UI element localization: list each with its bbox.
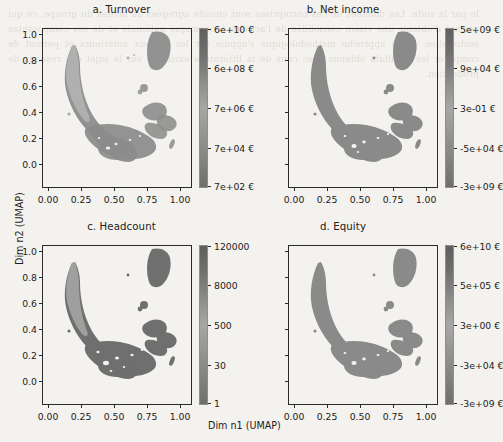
panel-a-title: a. Turnover: [0, 4, 243, 15]
panel-b-colorbar-label-2: 3e-01 €: [460, 103, 496, 114]
panel-b-colorbar-label-1: 9e+04 €: [460, 63, 500, 74]
panel-b-title: b. Net income: [243, 4, 443, 15]
panel-b-scatter-cloud: [288, 28, 438, 188]
panel-a-colorbar: 6e+10 € 6e+08 € 7e+06 € 7e+04 € 7e+02 €: [199, 28, 208, 188]
panel-c-ytick-0.2: 0.2: [22, 350, 37, 361]
panel-c-xtick-0.75: 0.75: [137, 411, 158, 422]
panel-b-xtick-0.25: 0.25: [317, 194, 338, 205]
panel-c-ytick-0.6: 0.6: [22, 298, 37, 309]
panel-b-xtick-1.00: 1.00: [416, 194, 437, 205]
panel-d-colorbar-label-1: 5e+05 €: [460, 280, 500, 291]
panel-a-ytick-0.6: 0.6: [22, 81, 37, 92]
panel-d-equity: d. Equity: [243, 217, 487, 442]
panel-d-colorbar-label-2: 3e+00 €: [460, 320, 500, 331]
panel-d-xtick-0.00: 0.00: [284, 411, 305, 422]
panel-c-xtick-1.00: 1.00: [170, 411, 191, 422]
panel-a-xtick-0.25: 0.25: [71, 194, 92, 205]
panel-c-xtick-0.25: 0.25: [71, 411, 92, 422]
panel-a-scatter-cloud: [42, 28, 192, 188]
figure-ylabel: Dim n2 (UMAP): [14, 192, 25, 265]
panel-d-axes: [288, 245, 438, 405]
panel-a-xtick-1.00: 1.00: [170, 194, 191, 205]
panel-b-xtick-0.50: 0.50: [350, 194, 371, 205]
panel-b-colorbar-label-0: 5e+09 €: [460, 24, 500, 35]
panel-a-axes: 1.0 0.8 0.6 0.4 0.2 0.0: [42, 28, 192, 188]
panel-a-colorbar-gradient: [199, 28, 208, 188]
panel-d-xtick-0.50: 0.50: [350, 411, 371, 422]
panel-c-xtick-0.50: 0.50: [104, 411, 125, 422]
panel-b-xtick-0.75: 0.75: [383, 194, 404, 205]
panel-d-xtick-0.25: 0.25: [317, 411, 338, 422]
panel-c-headcount: c. Headcount 1.0 0.8 0.6 0.4 0.2 0.0: [0, 217, 243, 442]
panel-c-axes: 1.0 0.8 0.6 0.4 0.2 0.0: [42, 245, 192, 405]
panel-c-scatter-cloud: [42, 245, 192, 405]
panel-c-colorbar-label-4: 1: [214, 398, 220, 409]
panel-a-xtick-0.00: 0.00: [38, 194, 59, 205]
panel-c-ytick-0.4: 0.4: [22, 324, 37, 335]
panel-d-colorbar: 6e+10 € 5e+05 € 3e+00 € -3e+04 € -3e+09 …: [445, 245, 454, 405]
panel-d-scatter-cloud: [288, 245, 438, 405]
panel-b-net-income: b. Net income: [243, 4, 487, 217]
panel-c-ytick-0.8: 0.8: [22, 272, 37, 283]
panel-a-xtick-0.75: 0.75: [137, 194, 158, 205]
figure-xlabel: Dim n1 (UMAP): [208, 420, 281, 431]
panel-d-colorbar-label-4: -3e+09 €: [460, 398, 503, 409]
panel-d-colorbar-label-3: -3e+04 €: [460, 360, 503, 371]
panel-c-colorbar: 120000 8000 500 30 1: [199, 245, 208, 405]
panel-a-ytick-0.4: 0.4: [22, 107, 37, 118]
panel-c-colorbar-label-3: 30: [214, 360, 226, 371]
panel-a-ytick-0.0: 0.0: [22, 159, 37, 170]
panel-b-axes: [288, 28, 438, 188]
panel-d-xtick-0.75: 0.75: [383, 411, 404, 422]
panel-b-colorbar-label-4: -3e+09 €: [460, 181, 503, 192]
panel-a-turnover: a. Turnover 1.0 0.8 0.6 0.4 0.2 0.0: [0, 4, 243, 217]
panel-c-xtick-0.00: 0.00: [38, 411, 59, 422]
panel-c-ytick-0.0: 0.0: [22, 376, 37, 387]
panel-b-colorbar-gradient: [445, 28, 454, 188]
panel-c-colorbar-label-2: 500: [214, 320, 232, 331]
panel-b-colorbar: 5e+09 € 9e+04 € 3e-01 € -5e+04 € -3e+09 …: [445, 28, 454, 188]
panel-d-colorbar-label-0: 6e+10 €: [460, 241, 500, 252]
panel-d-xtick-1.00: 1.00: [416, 411, 437, 422]
panel-b-xtick-0.00: 0.00: [284, 194, 305, 205]
panel-d-title: d. Equity: [243, 221, 443, 232]
panel-c-colorbar-gradient: [199, 245, 208, 405]
panel-a-xtick-0.50: 0.50: [104, 194, 125, 205]
panel-a-ytick-1.0: 1.0: [22, 29, 37, 40]
panel-c-title: c. Headcount: [0, 221, 243, 232]
panel-b-colorbar-label-3: -5e+04 €: [460, 143, 503, 154]
panel-d-colorbar-gradient: [445, 245, 454, 405]
panel-c-colorbar-label-1: 8000: [214, 280, 238, 291]
panel-a-ytick-0.8: 0.8: [22, 55, 37, 66]
panel-a-ytick-0.2: 0.2: [22, 133, 37, 144]
